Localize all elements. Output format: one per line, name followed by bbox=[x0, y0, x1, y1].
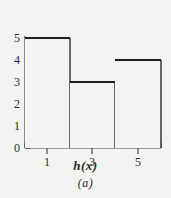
bar-1 bbox=[25, 38, 70, 148]
y-tick-label-4: 4 bbox=[14, 53, 20, 67]
y-axis-tick-labels: 0 1 2 3 4 5 bbox=[14, 31, 20, 155]
x-axis-title: h(x) bbox=[0, 158, 171, 174]
y-tick-label-2: 2 bbox=[14, 97, 20, 111]
figure-caption: (a) bbox=[0, 176, 171, 191]
y-tick-label-3: 3 bbox=[14, 75, 20, 89]
bar-1-fill bbox=[25, 38, 70, 148]
x-axis-ticks bbox=[47, 148, 138, 154]
y-tick-label-0: 0 bbox=[14, 141, 20, 155]
bar-2-fill bbox=[70, 82, 115, 148]
bar-3 bbox=[115, 60, 161, 148]
y-tick-label-5: 5 bbox=[14, 31, 20, 45]
figure-container: 0 1 2 3 4 5 1 3 5 bbox=[0, 0, 171, 198]
y-tick-label-1: 1 bbox=[14, 119, 20, 133]
bar-2 bbox=[70, 82, 115, 148]
bar-3-fill bbox=[115, 60, 161, 148]
